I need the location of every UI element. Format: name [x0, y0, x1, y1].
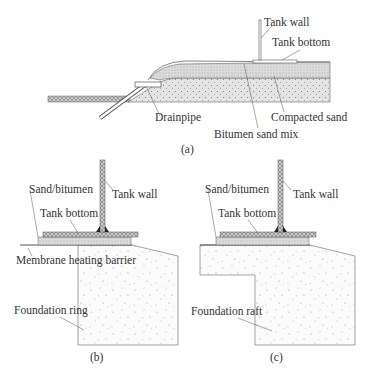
- label-compacted-sand: Compacted sand: [271, 112, 347, 124]
- sand-bitumen-layer: [38, 237, 131, 245]
- label-tank-wall-a: Tank wall: [264, 17, 310, 29]
- label-bitumen-sand-mix: Bitumen sand mix: [214, 129, 298, 141]
- bitumen-sand-layer: [150, 62, 330, 80]
- label-sand-bitumen-c: Sand/bitumen: [205, 184, 269, 196]
- tank-bottom-plate: [220, 232, 316, 237]
- label-drainpipe: Drainpipe: [155, 112, 201, 124]
- tank-wall: [100, 160, 105, 232]
- tank-bottom-plate: [43, 232, 138, 237]
- tank-bottom-plate: [253, 60, 297, 63]
- label-sand-bitumen-b: Sand/bitumen: [29, 184, 93, 196]
- label-membrane-heating-barrier: Membrane heating barrier: [16, 255, 136, 267]
- caption-c: (c): [270, 352, 283, 364]
- drainpipe-outlet: [135, 82, 161, 87]
- ground-strip: [48, 96, 130, 102]
- label-tank-bottom-c: Tank bottom: [218, 208, 276, 220]
- tank-wall: [259, 20, 261, 60]
- label-tank-wall-b: Tank wall: [112, 189, 158, 201]
- label-tank-wall-c: Tank wall: [293, 189, 339, 201]
- label-foundation-raft: Foundation raft: [191, 306, 262, 318]
- label-tank-bottom-b: Tank bottom: [40, 208, 98, 220]
- label-tank-bottom-a: Tank bottom: [272, 37, 330, 49]
- label-foundation-ring: Foundation ring: [14, 305, 88, 317]
- caption-b: (b): [90, 352, 103, 364]
- foundation-raft: [200, 245, 355, 345]
- compacted-sand-body: [128, 78, 330, 102]
- sand-bitumen-layer: [216, 237, 309, 245]
- caption-a: (a): [181, 144, 194, 156]
- tank-wall: [278, 160, 283, 232]
